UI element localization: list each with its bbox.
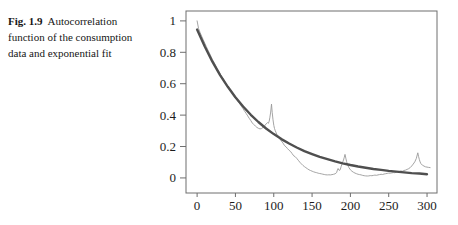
x-tick-label: 250 xyxy=(379,198,399,213)
y-tick-label: 0.6 xyxy=(160,76,177,91)
y-tick-label: 0.4 xyxy=(160,108,177,123)
plot-frame xyxy=(186,11,437,193)
acf-chart: 05010015020025030000.20.40.60.81 xyxy=(0,0,458,225)
x-tick-label: 100 xyxy=(264,198,284,213)
x-tick-label: 0 xyxy=(194,198,201,213)
y-tick-label: 0.8 xyxy=(160,45,176,60)
x-tick-label: 150 xyxy=(302,198,322,213)
x-tick-label: 200 xyxy=(341,198,361,213)
series-exponential-fit xyxy=(197,30,427,175)
x-tick-label: 50 xyxy=(229,198,242,213)
y-tick-label: 1 xyxy=(170,13,177,28)
y-tick-label: 0 xyxy=(170,170,177,185)
x-tick-label: 300 xyxy=(417,198,437,213)
series-autocorrelation xyxy=(197,21,430,176)
y-tick-label: 0.2 xyxy=(160,139,176,154)
